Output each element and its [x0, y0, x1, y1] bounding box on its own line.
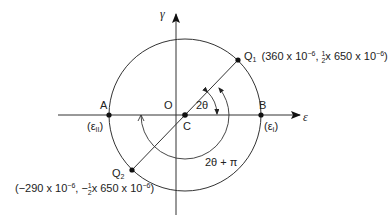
q2-idx: 2 — [121, 173, 125, 180]
point-q2 — [129, 167, 134, 172]
q2-close: ) — [150, 182, 154, 194]
q1-close: ) — [384, 50, 388, 62]
point-c — [182, 112, 188, 118]
label-q1: Q1 (360 x 10−6, 12x 650 x 10−6) — [244, 50, 388, 64]
q1-idx: 1 — [253, 56, 257, 63]
angle-arc-2theta — [208, 92, 218, 114]
label-q2-letter: Q2 — [112, 167, 125, 180]
q1-exp2: −6 — [376, 50, 384, 57]
point-q1 — [235, 57, 240, 62]
mohrs-circle-diagram: γ ε A (εII) B (εI) O C 2θ 2θ + π Q1 (360… — [0, 0, 391, 221]
label-b-eps: (ε — [264, 120, 273, 132]
q1-exp1: −6 — [307, 50, 315, 57]
q2-sep: , − — [75, 182, 88, 194]
point-b — [258, 112, 263, 117]
label-b-close: ) — [275, 120, 279, 132]
angle-arc-outer-upper — [219, 88, 229, 115]
label-2theta: 2θ — [196, 99, 208, 111]
label-c: C — [183, 120, 191, 132]
q1-coord-y: x 650 x 10 — [325, 50, 376, 62]
q2-exp1: −6 — [67, 182, 75, 189]
q2-exp2: −6 — [142, 182, 150, 189]
q1-coord-x: (360 x 10 — [262, 50, 308, 62]
label-b: B — [259, 99, 266, 111]
gamma-axis-label: γ — [160, 7, 165, 21]
label-b-strain: (εI) — [264, 120, 278, 133]
q2-coord-x: (−290 x 10 — [15, 182, 67, 194]
point-a — [106, 112, 111, 117]
label-q2-coords: (−290 x 10−6, −12x 650 x 10−6) — [15, 182, 154, 196]
label-a-eps: (ε — [87, 120, 96, 132]
label-a-close: ) — [99, 120, 103, 132]
label-a-strain: (εII) — [87, 120, 103, 133]
epsilon-axis-label: ε — [303, 110, 308, 124]
label-o: O — [164, 99, 173, 111]
label-a: A — [100, 99, 108, 111]
q2-coord-y: x 650 x 10 — [92, 182, 143, 194]
label-2theta-plus-pi: 2θ + π — [205, 156, 238, 168]
